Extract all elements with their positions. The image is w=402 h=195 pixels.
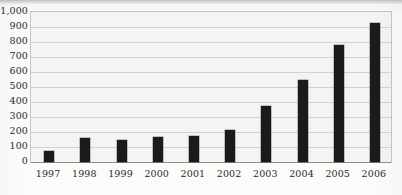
gridline-800 (31, 42, 391, 43)
x-tick-label-1999: 1999 (101, 168, 141, 179)
bar-1999 (117, 140, 127, 163)
x-tick-label-1997: 1997 (28, 168, 68, 179)
x-tick-label-2006: 2006 (354, 168, 394, 179)
scan-edge-artifact (0, 0, 402, 4)
y-tick-label-400: 400 (0, 96, 28, 106)
gridline-0 (31, 162, 391, 163)
y-tick-label-800: 800 (0, 36, 28, 46)
x-tick-label-2005: 2005 (318, 168, 358, 179)
bar-1998 (80, 138, 90, 162)
y-tick-label-0: 0 (0, 156, 28, 166)
bar-1997 (44, 151, 54, 162)
x-tick-label-2001: 2001 (173, 168, 213, 179)
x-tick-label-2000: 2000 (137, 168, 177, 179)
x-tick-label-2003: 2003 (245, 168, 285, 179)
bar-2002 (225, 130, 235, 162)
bar-2003 (261, 106, 271, 162)
y-tick-label-300: 300 (0, 111, 28, 121)
bar-2006 (370, 23, 380, 163)
y-tick-label-600: 600 (0, 66, 28, 76)
y-tick-label-500: 500 (0, 81, 28, 91)
x-tick-label-2004: 2004 (282, 168, 322, 179)
y-tick-label-900: 900 (0, 21, 28, 31)
y-tick-label-200: 200 (0, 126, 28, 136)
y-tick-label-1000: 1,000 (0, 6, 28, 16)
plot-inner (31, 12, 391, 162)
bar-2000 (153, 137, 163, 162)
y-tick-label-700: 700 (0, 51, 28, 61)
bar-2005 (334, 45, 344, 162)
x-tick-label-2002: 2002 (209, 168, 249, 179)
x-tick-label-1998: 1998 (64, 168, 104, 179)
gridline-900 (31, 27, 391, 28)
y-tick-label-100: 100 (0, 141, 28, 151)
bar-chart-figure: 1,0009008007006005004003002001000 199719… (0, 0, 402, 195)
bar-2001 (189, 136, 199, 162)
bar-2004 (298, 80, 308, 162)
plot-area (30, 11, 392, 163)
